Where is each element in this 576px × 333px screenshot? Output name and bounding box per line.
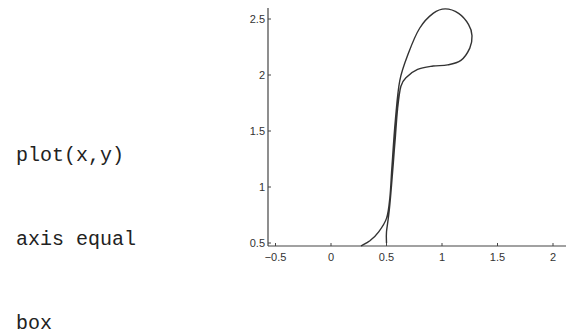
axes — [268, 8, 566, 246]
y-tick-label: 1 — [259, 181, 265, 193]
x-tick-label: 2 — [550, 251, 556, 263]
code-line: box — [16, 310, 136, 333]
y-tick-label: 2.5 — [250, 13, 265, 25]
x-tick-label: 1.5 — [490, 251, 505, 263]
x-tick-label: 0.5 — [379, 251, 394, 263]
y-tick-label: 2 — [259, 69, 265, 81]
y-tick-label: 0.5 — [250, 237, 265, 249]
x-tick-label: 1 — [439, 251, 445, 263]
y-tick-label: 1.5 — [250, 125, 265, 137]
x-tick-label: 0 — [328, 251, 334, 263]
data-curve — [361, 9, 472, 246]
x-tick-label: −0.5 — [265, 251, 287, 263]
